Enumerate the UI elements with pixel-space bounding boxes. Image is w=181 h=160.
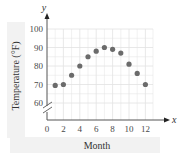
data-point [143,82,148,87]
y-tick-label: 90 [34,43,44,53]
y-axis-variable: y [41,2,47,13]
data-point [94,49,99,54]
x-tick-label: 6 [94,124,99,134]
scatter-chart: 02468101260708090100 Month Temperature (… [0,0,181,160]
data-point [135,71,140,76]
x-tick-label: 12 [141,124,150,134]
data-point [61,82,66,87]
tick-labels: 02468101260708090100 [30,24,150,134]
data-points [53,45,148,88]
y-tick-label: 70 [34,80,44,90]
y-arrow-icon [45,13,50,19]
data-point [53,83,58,88]
x-tick-label: 0 [45,124,50,134]
x-arrow-icon [164,118,170,123]
data-point [85,54,90,59]
x-tick-label: 8 [110,124,115,134]
x-tick-label: 2 [61,124,66,134]
data-point [126,62,131,67]
y-tick-label: 80 [34,61,44,71]
x-tick-label: 10 [125,124,135,134]
axes [43,13,170,123]
data-point [102,45,107,50]
y-axis-label: Temperature (°F) [10,41,22,110]
x-axis-variable: x [171,114,177,125]
data-point [69,73,74,78]
data-point [77,63,82,68]
x-tick-label: 4 [78,124,83,134]
data-point [110,47,115,52]
y-tick-label: 60 [34,98,44,108]
x-axis-label: Month [84,140,111,151]
data-point [118,50,123,55]
y-tick-label: 100 [30,24,44,34]
